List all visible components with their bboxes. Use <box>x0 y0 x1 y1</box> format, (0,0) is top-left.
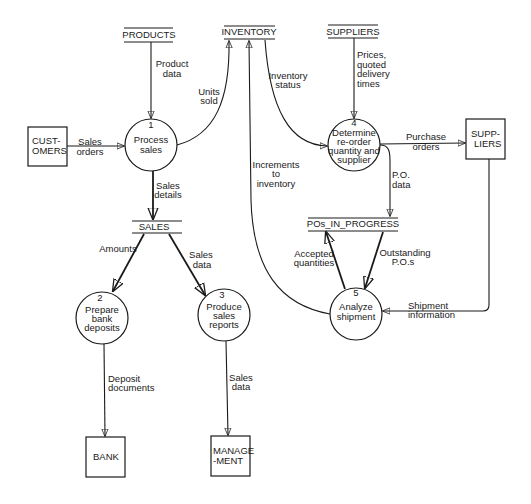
svg-text:deposits: deposits <box>84 322 120 333</box>
svg-text:details: details <box>154 189 182 200</box>
svg-text:2: 2 <box>97 292 102 303</box>
flow-sales-details: Sales details <box>153 171 182 219</box>
svg-text:documents: documents <box>108 382 155 393</box>
svg-text:status: status <box>275 79 301 90</box>
svg-text:P.O.s: P.O.s <box>392 256 415 267</box>
svg-text:reports: reports <box>209 319 239 330</box>
svg-text:5: 5 <box>353 287 358 298</box>
flow-prices: Prices, quoted delivery times <box>354 38 390 118</box>
svg-text:data: data <box>193 259 212 270</box>
svg-text:data: data <box>232 381 251 392</box>
flow-sales-orders: Sales orders <box>67 136 124 157</box>
entity-suppliers: SUPP- LIERS <box>466 119 505 159</box>
flow-deposit-documents: Deposit documents <box>104 344 155 436</box>
svg-text:supplier: supplier <box>337 154 370 165</box>
svg-text:sold: sold <box>200 95 217 106</box>
svg-text:SUPPLIERS: SUPPLIERS <box>326 26 379 37</box>
svg-text:BANK: BANK <box>93 451 120 462</box>
svg-text:-MENT: -MENT <box>213 455 243 466</box>
flow-sales-data-to-p3: Sales data <box>169 234 213 295</box>
store-inventory: INVENTORY <box>221 26 277 39</box>
store-suppliers: SUPPLIERS <box>326 25 379 38</box>
svg-text:POs_IN_PROGRESS: POs_IN_PROGRESS <box>307 218 399 229</box>
flow-po-data: P.O. data <box>380 145 411 216</box>
flow-purchase-orders: Purchase orders <box>380 131 465 152</box>
svg-text:data: data <box>392 179 411 190</box>
process-2-prepare-bank-deposits: 2 Prepare bank deposits <box>76 292 128 344</box>
svg-text:INVENTORY: INVENTORY <box>221 26 277 37</box>
svg-text:3: 3 <box>219 289 224 300</box>
process-1-process-sales: 1 Process sales <box>125 119 177 171</box>
svg-text:SALES: SALES <box>139 221 170 232</box>
flow-sales-data-to-management: Sales data <box>226 341 253 435</box>
svg-text:orders: orders <box>77 146 104 157</box>
data-flow-diagram: PRODUCTS INVENTORY SUPPLIERS SALES POs_I… <box>0 0 531 504</box>
svg-text:quantities: quantities <box>294 257 335 268</box>
svg-text:times: times <box>357 78 380 89</box>
flow-product-data: Product data <box>151 42 189 118</box>
store-sales: SALES <box>132 221 182 233</box>
process-3-produce-sales-reports: 3 Produce sales reports <box>198 289 250 341</box>
store-products: PRODUCTS <box>122 28 175 42</box>
svg-text:orders: orders <box>413 141 440 152</box>
svg-text:data: data <box>163 68 182 79</box>
svg-text:1: 1 <box>148 119 153 130</box>
svg-text:PRODUCTS: PRODUCTS <box>122 29 175 40</box>
flow-accepted-quantities: Accepted quantities <box>294 232 345 289</box>
entity-bank: BANK <box>86 437 125 477</box>
entity-management: MANAGE -MENT <box>211 436 254 476</box>
svg-text:Amounts: Amounts <box>99 243 137 254</box>
store-pos-in-progress: POs_IN_PROGRESS <box>307 218 399 231</box>
svg-text:sales: sales <box>140 144 162 155</box>
svg-text:shipment: shipment <box>337 311 376 322</box>
svg-text:LIERS: LIERS <box>474 138 501 149</box>
flow-inventory-status: Inventory status <box>265 40 327 146</box>
process-5-analyze-shipment: 5 Analyze shipment <box>330 287 382 340</box>
flow-amounts: Amounts <box>99 234 144 291</box>
flow-units-sold: Units sold <box>177 41 229 145</box>
entity-customers: CUST- OMERS <box>28 127 67 166</box>
svg-text:information: information <box>408 309 455 320</box>
process-4-determine-reorder: 4 Determine re-order quantity and suppli… <box>328 117 380 171</box>
flow-outstanding-pos: Outstanding P.O.s <box>365 232 431 288</box>
svg-text:OMERS: OMERS <box>32 145 67 156</box>
svg-text:inventory: inventory <box>257 178 296 189</box>
